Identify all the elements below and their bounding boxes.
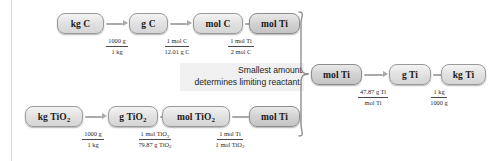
node-g-ti: g Ti <box>389 64 431 85</box>
node-g-tio2: g TiO2 <box>108 106 158 127</box>
node-mol-ti-bottom: mol Ti <box>249 106 300 127</box>
node-label: kg TiO2 <box>38 112 71 122</box>
factor-numerator: 1000 g <box>82 130 104 140</box>
node-label: g Ti <box>402 70 418 80</box>
factor-bottom-2: 1 mol TiO2 79.87 g TiO2 <box>124 130 186 149</box>
factor-result-2: 1 kg 1000 g <box>415 88 463 107</box>
node-label: mol TiO2 <box>177 112 215 122</box>
diagram-canvas: kg C g C mol C mol Ti 1000 g 1 kg 1 mol … <box>0 0 497 161</box>
node-mol-c: mol C <box>193 13 243 34</box>
node-label: mol Ti <box>261 112 288 122</box>
factor-numerator: 1 mol Ti <box>217 130 243 140</box>
node-label: g C <box>141 19 155 29</box>
note-line-1: Smallest amount <box>184 65 302 77</box>
node-kg-ti: kg Ti <box>441 64 486 85</box>
limiting-reactant-note: Smallest amount determines limiting reac… <box>180 63 304 91</box>
factor-denominator: 1 mol TiO2 <box>214 140 247 149</box>
arrow-kgc-to-gc <box>106 20 128 27</box>
factor-denominator: 12.01 g C <box>162 47 191 56</box>
factor-denominator: mol Ti <box>363 98 384 107</box>
node-mol-ti-top: mol Ti <box>249 13 300 34</box>
page-margin-rule <box>11 0 12 161</box>
factor-denominator: 1 kg <box>85 140 100 149</box>
arrow-kgtio2-to-gtio2 <box>85 113 107 120</box>
node-label: kg Ti <box>453 70 475 80</box>
node-mol-tio2: mol TiO2 <box>162 106 230 127</box>
node-kg-c: kg C <box>57 13 104 34</box>
note-line-2: determines limiting reactant. <box>184 77 302 89</box>
factor-numerator: 47.87 g Ti <box>358 88 388 98</box>
factor-denominator: 2 mol C <box>229 47 254 56</box>
factor-result-1: 47.87 g Ti mol Ti <box>345 88 401 107</box>
node-kg-tio2: kg TiO2 <box>25 106 83 127</box>
factor-numerator: 1 mol C <box>165 37 190 47</box>
factor-bottom-3: 1 mol Ti 1 mol TiO2 <box>200 130 260 149</box>
node-label: mol C <box>205 19 230 29</box>
factor-denominator: 1 kg <box>109 47 124 56</box>
arrow-molti-to-gti <box>364 71 388 78</box>
factor-denominator: 1000 g <box>428 98 450 107</box>
node-g-c: g C <box>129 13 168 34</box>
node-label: mol Ti <box>261 19 288 29</box>
factor-top-1: 1000 g 1 kg <box>90 37 144 56</box>
factor-numerator: 1 mol Ti <box>228 37 254 47</box>
factor-numerator: 1 mol TiO2 <box>139 130 172 140</box>
factor-top-2: 1 mol C 12.01 g C <box>149 37 205 56</box>
node-label: kg C <box>71 19 91 29</box>
factor-bottom-1: 1000 g 1 kg <box>66 130 120 149</box>
arrow-gc-to-molc <box>170 20 192 27</box>
factor-top-3: 1 mol Ti 2 mol C <box>215 37 267 56</box>
factor-numerator: 1 kg <box>431 88 446 98</box>
factor-numerator: 1000 g <box>106 37 128 47</box>
node-mol-ti-result: mol Ti <box>311 64 362 85</box>
factor-denominator: 79.87 g TiO2 <box>136 140 173 149</box>
node-label: mol Ti <box>323 70 350 80</box>
node-label: g TiO2 <box>119 112 146 122</box>
